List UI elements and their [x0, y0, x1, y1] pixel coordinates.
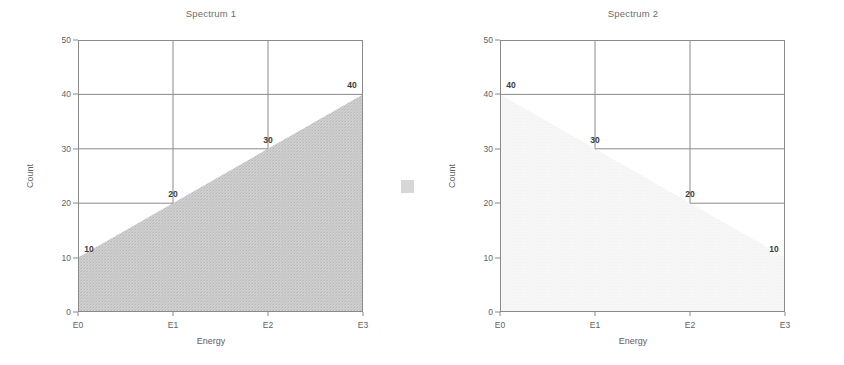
contour-value-label: 20 [685, 189, 694, 199]
y-tick-mark [495, 203, 500, 204]
y-tick-mark [73, 257, 78, 258]
x-axis-title-2: Energy [422, 336, 844, 346]
chart-panel-spectrum-1: Spectrum 1 01020304050E0E1E2E310203040 C… [0, 0, 422, 365]
contour-value-label: 30 [590, 135, 599, 145]
x-tick-label: E3 [780, 320, 790, 330]
y-tick-label: 50 [62, 35, 71, 45]
x-tick-mark [363, 312, 364, 316]
y-tick-label: 0 [488, 307, 493, 317]
y-tick-label: 20 [62, 198, 71, 208]
contour-value-label: 40 [506, 80, 515, 90]
y-tick-mark [495, 148, 500, 149]
x-axis-title-1: Energy [0, 336, 422, 346]
y-tick-label: 20 [484, 198, 493, 208]
y-tick-label: 40 [484, 89, 493, 99]
y-tick-mark [73, 40, 78, 41]
y-axis-title-2: Count [447, 164, 457, 188]
y-tick-mark [73, 94, 78, 95]
plot-canvas-2 [500, 40, 785, 312]
contour-value-label: 10 [769, 244, 778, 254]
x-tick-label: E3 [358, 320, 368, 330]
y-tick-label: 10 [484, 253, 493, 263]
chart-title-1: Spectrum 1 [0, 8, 422, 19]
chart-title-2: Spectrum 2 [422, 8, 844, 19]
y-tick-mark [495, 257, 500, 258]
x-tick-label: E0 [495, 320, 505, 330]
y-tick-label: 0 [66, 307, 71, 317]
y-tick-mark [73, 203, 78, 204]
contour-value-label: 10 [84, 244, 93, 254]
x-tick-label: E0 [73, 320, 83, 330]
y-tick-label: 10 [62, 253, 71, 263]
chart-panel-spectrum-2: Spectrum 2 01020304050E0E1E2E340302010 C… [422, 0, 844, 365]
contour-value-label: 20 [168, 189, 177, 199]
x-tick-label: E2 [263, 320, 273, 330]
x-tick-mark [268, 312, 269, 316]
y-tick-mark [495, 94, 500, 95]
x-tick-mark [500, 312, 501, 316]
divider-square-icon [401, 180, 414, 193]
y-tick-label: 30 [484, 144, 493, 154]
x-tick-mark [173, 312, 174, 316]
x-tick-label: E1 [168, 320, 178, 330]
plot-area-2: 01020304050E0E1E2E340302010 [500, 40, 785, 312]
x-tick-mark [690, 312, 691, 316]
plot-area-1: 01020304050E0E1E2E310203040 [78, 40, 363, 312]
plot-canvas-1 [78, 40, 363, 312]
y-tick-label: 40 [62, 89, 71, 99]
contour-value-label: 40 [347, 80, 356, 90]
x-tick-mark [78, 312, 79, 316]
x-tick-mark [595, 312, 596, 316]
y-tick-mark [73, 148, 78, 149]
y-tick-mark [495, 40, 500, 41]
x-tick-label: E1 [590, 320, 600, 330]
y-tick-label: 50 [484, 35, 493, 45]
y-axis-title-1: Count [25, 164, 35, 188]
y-tick-label: 30 [62, 144, 71, 154]
x-tick-mark [785, 312, 786, 316]
contour-value-label: 30 [263, 135, 272, 145]
x-tick-label: E2 [685, 320, 695, 330]
